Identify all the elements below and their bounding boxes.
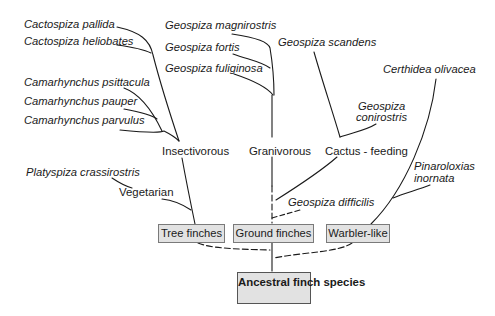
lineage-box-ground-finches: Ground finches [233, 224, 314, 243]
species-geospiza-magnirostris: Geospiza magnirostris [165, 19, 276, 31]
species-cactospiza-heliobates: Cactospiza heliobates [24, 35, 133, 47]
group-granivorous: Granivorous [249, 145, 311, 157]
branch-cam-parvulus [120, 130, 179, 141]
branch-tree-finches-to-root [198, 243, 270, 250]
branch-fuliginosa [234, 74, 273, 95]
group-vegetarian: Vegetarian [119, 186, 173, 198]
lineage-box-tree-finches: Tree finches [158, 224, 225, 243]
branch-warbler-to-root [274, 243, 352, 258]
species-camarhynchus-parvulus: Camarhynchus parvulus [24, 114, 145, 126]
species-geospiza-fortis: Geospiza fortis [165, 41, 240, 53]
species-geospiza-fuliginosa: Geospiza fuliginosa [165, 62, 263, 74]
species-camarhynchus-pauper: Camarhynchus pauper [24, 95, 137, 107]
branch-insectivorous-trunk [182, 158, 195, 224]
branch-conirostris [340, 124, 376, 137]
branch-scandens [314, 52, 340, 137]
tree-branches [0, 0, 495, 316]
branch-cactus-to-ground [276, 157, 337, 200]
species-camarhynchus-psittacula: Camarhynchus psittacula [24, 76, 150, 88]
branch-difficilis [272, 210, 300, 218]
species-geospiza-scandens: Geospiza scandens [278, 36, 376, 48]
group-insectivorous: Insectivorous [162, 145, 229, 157]
species-geospiza-conirostris-line2: conirostris [356, 111, 407, 123]
group-cactus-feeding: Cactus - feeding [325, 145, 408, 157]
species-pinaroloxias-inornata-line2: inornata [414, 172, 454, 184]
branch-pinaroloxias [393, 185, 430, 198]
species-certhidea-olivacea: Certhidea olivacea [383, 63, 476, 75]
lineage-box-warbler-like: Warbler-like [326, 224, 390, 243]
branch-vegetarian [162, 199, 191, 210]
root-box-ancestral-finch-species: Ancestral finch species [237, 272, 311, 304]
species-geospiza-difficilis: Geospiza difficilis [288, 196, 374, 208]
finch-phylogeny-diagram: Cactospiza pallida Cactospiza heliobates… [0, 0, 495, 316]
species-platyspiza-crassirostris: Platyspiza crassirostris [26, 166, 140, 178]
species-pinaroloxias-inornata-line1: Pinaroloxias [414, 160, 475, 172]
species-cactospiza-pallida: Cactospiza pallida [24, 18, 115, 30]
